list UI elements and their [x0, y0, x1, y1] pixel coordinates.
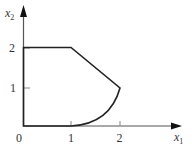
y-tick-label-1: 1: [10, 81, 16, 95]
x-axis-label: x1: [173, 130, 183, 146]
ticks: [24, 48, 121, 126]
origin-label: 0: [16, 131, 22, 145]
y-axis-label-sub: 2: [10, 13, 14, 22]
x-axis-label-sub: 1: [179, 137, 183, 146]
region-boundary: [24, 48, 121, 127]
x-axis-arrow-icon: [171, 123, 182, 130]
x-tick-label-2: 2: [117, 131, 123, 145]
y-tick-label-2: 2: [9, 41, 15, 55]
y-axis-arrow-icon: [20, 5, 27, 17]
y-axis-label: x2: [4, 6, 14, 22]
x-tick-label-1: 1: [68, 131, 74, 145]
axes: [20, 5, 182, 130]
diagram-canvas: 0 1 2 1 2 x1 x2: [0, 0, 192, 148]
